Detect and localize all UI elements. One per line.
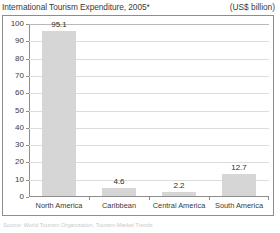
chart-frame: 010203040506070809010095.1North America4… [2, 15, 274, 216]
y-axis-tick-label: 80 [15, 55, 24, 63]
chart-figure: International Tourism Expenditure, 2005*… [0, 0, 280, 233]
y-axis-tick-label: 10 [15, 176, 24, 184]
y-axis-tick [26, 41, 29, 42]
chart-units-label: (US$ billion) [230, 3, 276, 12]
y-axis-tick-label: 0 [20, 193, 24, 201]
chart-footnote: Source: World Tourism Organization, Tour… [3, 222, 277, 229]
bar [42, 31, 76, 196]
bar-value-label: 4.6 [113, 178, 124, 186]
x-axis-category-label: Central America [153, 202, 206, 210]
y-axis-tick [26, 76, 29, 77]
y-axis-tick [26, 59, 29, 60]
bar-value-label: 2.2 [173, 182, 184, 190]
y-axis-tick-label: 50 [15, 107, 24, 115]
y-axis-tick [26, 111, 29, 112]
x-axis-category-label: Caribbean [102, 202, 136, 210]
x-axis-tick [268, 197, 269, 200]
y-axis-tick [26, 93, 29, 94]
y-axis-tick-label: 20 [15, 158, 24, 166]
y-axis-tick-label: 100 [11, 20, 24, 28]
chart-title-row: International Tourism Expenditure, 2005*… [0, 0, 280, 14]
y-axis-tick [26, 197, 29, 198]
y-axis-tick [26, 128, 29, 129]
bar [102, 188, 136, 196]
y-axis-tick [26, 145, 29, 146]
y-axis-tick-label: 40 [15, 124, 24, 132]
x-axis-tick [149, 197, 150, 200]
y-axis-tick-label: 30 [15, 141, 24, 149]
x-axis-category-label: South America [215, 202, 263, 210]
bar-value-label: 95.1 [51, 21, 67, 29]
bar [222, 174, 256, 196]
y-axis-tick-label: 90 [15, 37, 24, 45]
y-axis-tick [26, 24, 29, 25]
y-axis-tick [26, 180, 29, 181]
x-axis-category-label: North America [36, 202, 83, 210]
y-axis-tick-label: 60 [15, 89, 24, 97]
x-axis-tick [89, 197, 90, 200]
bar-value-label: 12.7 [231, 164, 247, 172]
bar [162, 192, 196, 196]
y-axis-tick [26, 162, 29, 163]
x-axis-tick [209, 197, 210, 200]
y-axis-tick-label: 70 [15, 72, 24, 80]
plot-area: 010203040506070809010095.1North America4… [29, 24, 269, 197]
chart-title: International Tourism Expenditure, 2005* [2, 3, 150, 12]
